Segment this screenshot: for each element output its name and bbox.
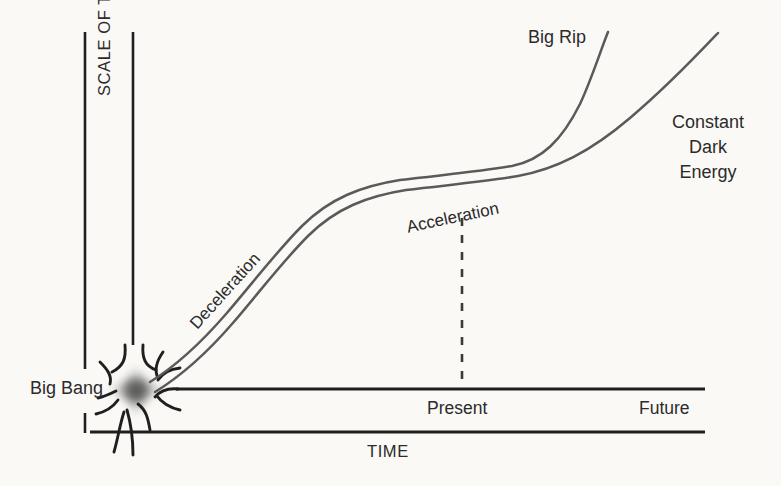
cde-line-2: Dark	[672, 135, 744, 160]
x-tick-future: Future	[639, 398, 690, 419]
x-axis-label: TIME	[367, 442, 409, 461]
constant-dark-energy-label: Constant Dark Energy	[672, 110, 744, 185]
big-rip-label: Big Rip	[528, 27, 586, 48]
x-tick-present: Present	[427, 398, 487, 419]
curve-big-rip	[150, 32, 608, 382]
diagram-canvas: SCALE OF THE UNIVERSE Big Bang Decelerat…	[0, 0, 781, 486]
cde-line-1: Constant	[672, 110, 744, 135]
y-axis-label: SCALE OF THE UNIVERSE	[95, 0, 114, 96]
big-bang-starburst	[96, 345, 180, 455]
cde-line-3: Energy	[672, 160, 744, 185]
big-bang-label: Big Bang	[30, 378, 103, 399]
